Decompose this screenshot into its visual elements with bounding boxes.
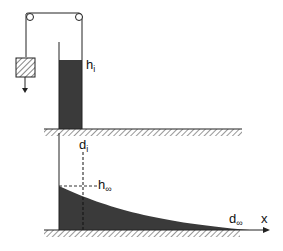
arrow-right-icon bbox=[263, 227, 270, 233]
down-arrow-icon bbox=[22, 88, 28, 93]
ground-bottom bbox=[44, 230, 240, 237]
reservoir bbox=[59, 30, 82, 129]
pulley-right-icon bbox=[76, 14, 83, 21]
dam-break-diagram: hi di h∞ d∞ x bbox=[0, 0, 283, 251]
counterweight bbox=[16, 58, 35, 93]
rope bbox=[26, 13, 82, 57]
label-h-i: hi bbox=[86, 58, 95, 74]
label-d-inf: d∞ bbox=[229, 212, 243, 228]
spread-fluid-profile bbox=[59, 186, 250, 230]
label-h-inf: h∞ bbox=[98, 178, 112, 194]
reservoir-fluid bbox=[59, 60, 82, 129]
pulley-left-icon bbox=[27, 14, 34, 21]
ground-top bbox=[44, 129, 242, 136]
label-d-i: di bbox=[79, 138, 88, 154]
label-x-axis: x bbox=[261, 212, 268, 225]
